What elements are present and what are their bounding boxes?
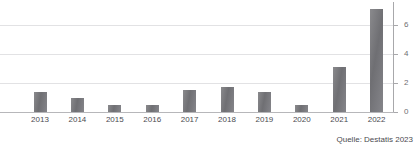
source-note: Quelle: Destatis 2023 <box>337 135 414 144</box>
bar-2021 <box>333 67 346 112</box>
x-tick-label-2019: 2019 <box>247 116 281 124</box>
bar-chart: 0246 20132014201520162017201820192020202… <box>0 0 419 149</box>
y-tick-0 <box>394 112 398 113</box>
bar-2014 <box>71 98 84 112</box>
gridline-4 <box>0 54 394 55</box>
x-tick-label-2018: 2018 <box>210 116 244 124</box>
x-axis-baseline <box>0 112 394 113</box>
y-tick-label-0: 0 <box>404 108 408 116</box>
x-tick-label-2013: 2013 <box>23 116 57 124</box>
x-tick-label-2015: 2015 <box>98 116 132 124</box>
bar-2015 <box>108 105 121 112</box>
y-tick-label-6: 6 <box>404 21 408 29</box>
plot-area <box>0 0 394 113</box>
bar-2022 <box>370 9 383 112</box>
y-tick-2 <box>394 83 398 84</box>
y-tick-label-2: 2 <box>404 79 408 87</box>
x-tick-label-2014: 2014 <box>60 116 94 124</box>
bar-2018 <box>221 87 234 112</box>
x-tick-label-2021: 2021 <box>322 116 356 124</box>
bar-2019 <box>258 92 271 112</box>
y-tick-label-4: 4 <box>404 50 408 58</box>
bar-2013 <box>34 92 47 112</box>
y-tick-6 <box>394 25 398 26</box>
x-tick-label-2017: 2017 <box>173 116 207 124</box>
y-tick-4 <box>394 54 398 55</box>
bar-2016 <box>146 105 159 112</box>
x-tick-label-2022: 2022 <box>360 116 394 124</box>
x-tick-label-2020: 2020 <box>285 116 319 124</box>
y-axis-line <box>393 2 394 112</box>
gridline-6 <box>0 25 394 26</box>
bar-2017 <box>183 90 196 112</box>
x-tick-label-2016: 2016 <box>135 116 169 124</box>
